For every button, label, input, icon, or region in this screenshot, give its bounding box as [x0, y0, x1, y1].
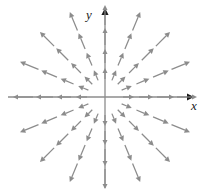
field-vector-shaft — [25, 125, 38, 131]
field-vector — [118, 76, 126, 84]
field-vector — [157, 95, 174, 100]
field-vector-head — [103, 161, 108, 166]
field-vector-shaft — [96, 114, 98, 119]
field-vector-shaft — [66, 81, 74, 84]
field-vector — [136, 110, 149, 116]
vector-field-figure: y x — [0, 0, 207, 196]
field-vector-shaft — [156, 36, 166, 46]
field-vector — [133, 164, 141, 182]
field-vector — [172, 125, 190, 133]
field-vector-head — [169, 95, 174, 100]
field-vector — [56, 134, 68, 146]
field-vector-head — [103, 5, 108, 10]
field-vector — [125, 33, 132, 49]
field-vector-head — [57, 95, 62, 100]
field-vector — [112, 70, 117, 80]
field-vector-shaft — [142, 52, 150, 60]
field-vector — [78, 85, 88, 90]
field-vector — [118, 128, 124, 141]
field-vector-shaft — [83, 88, 88, 90]
field-vector-head — [103, 140, 108, 145]
field-vector — [56, 48, 68, 60]
field-vector — [69, 12, 77, 30]
field-vector — [118, 53, 124, 66]
field-vector-shaft — [81, 38, 85, 49]
field-vector — [20, 125, 38, 133]
field-vector-shaft — [44, 148, 54, 158]
field-vector — [156, 148, 170, 162]
field-vector-shaft — [72, 17, 78, 30]
field-vector-shaft — [83, 104, 88, 106]
field-vector-shaft — [89, 128, 92, 136]
field-vector — [61, 78, 74, 84]
field-vector-shaft — [118, 128, 121, 136]
field-vector — [13, 95, 33, 100]
field-vector — [136, 78, 149, 84]
field-vector-shaft — [81, 145, 85, 156]
field-vector — [133, 12, 141, 30]
field-vector-shaft — [125, 38, 129, 49]
field-vector-shaft — [89, 58, 92, 66]
field-vector-shaft — [88, 110, 92, 114]
field-vector — [93, 114, 98, 124]
field-vector-shaft — [25, 64, 38, 70]
field-vector — [172, 61, 190, 69]
field-vector-head — [103, 121, 108, 126]
field-vector-shaft — [46, 117, 57, 121]
field-vector — [71, 121, 81, 131]
field-vector-shaft — [118, 58, 121, 66]
field-vector — [78, 145, 85, 161]
field-vector — [123, 95, 134, 100]
field-vector — [103, 68, 108, 79]
field-vector-head — [103, 184, 108, 189]
field-vector-shaft — [136, 81, 144, 84]
field-vector-shaft — [122, 88, 127, 90]
field-vector — [78, 104, 88, 109]
field-vector — [41, 117, 57, 124]
field-vector-shaft — [44, 36, 54, 46]
field-vector-head — [129, 95, 134, 100]
field-vector — [76, 95, 87, 100]
field-vector-shaft — [153, 117, 164, 121]
field-vector — [122, 85, 132, 90]
field-vector — [118, 110, 126, 118]
x-axis-label: x — [191, 99, 197, 112]
field-vector — [36, 95, 53, 100]
field-vector — [20, 61, 38, 69]
field-vector — [40, 32, 54, 46]
field-vector — [61, 110, 74, 116]
field-vector-shaft — [153, 73, 164, 77]
field-vector — [86, 128, 92, 141]
field-vector — [142, 48, 154, 60]
field-vector-head — [76, 95, 81, 100]
field-vector — [84, 110, 92, 118]
field-vector-shaft — [133, 164, 139, 177]
field-vector-head — [103, 68, 108, 73]
field-vector-shaft — [118, 110, 122, 114]
field-vector-shaft — [172, 64, 185, 70]
field-vector — [86, 53, 92, 66]
field-vector-shaft — [133, 17, 139, 30]
field-vector-shaft — [75, 67, 81, 73]
field-vector-head — [36, 95, 41, 100]
field-vector — [112, 114, 117, 124]
field-vector — [103, 131, 108, 145]
field-vector-head — [148, 95, 153, 100]
field-vector-shaft — [96, 75, 98, 80]
field-vector-shaft — [66, 110, 74, 113]
field-vector-shaft — [125, 145, 129, 156]
field-vector — [139, 95, 153, 100]
field-vector — [122, 104, 132, 109]
field-vector-shaft — [118, 80, 122, 84]
field-vector — [125, 145, 132, 161]
field-vector — [129, 121, 139, 131]
field-vector — [71, 63, 81, 73]
field-vector-shaft — [112, 75, 114, 80]
field-vector-shaft — [172, 125, 185, 131]
field-vector — [103, 28, 108, 45]
field-vector-head — [13, 95, 18, 100]
field-vector — [103, 115, 108, 126]
field-vector-shaft — [129, 121, 135, 127]
vector-field-canvas — [0, 0, 207, 196]
field-vector — [57, 95, 71, 100]
